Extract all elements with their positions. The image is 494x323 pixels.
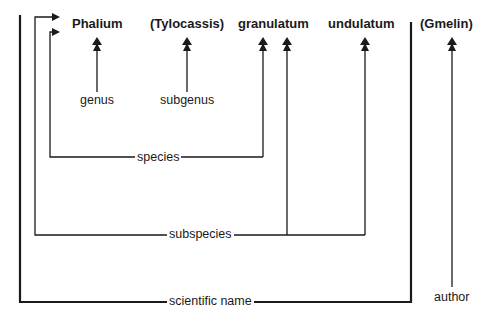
connector-lines: [0, 0, 494, 323]
arrowhead-icon: [447, 37, 457, 45]
subgenus-label: subgenus: [158, 93, 216, 107]
genus-label: genus: [78, 93, 116, 107]
genus-name: Phalium: [72, 16, 123, 31]
species-name: granulatum: [238, 16, 309, 31]
subgenus-name: (Tylocassis): [150, 16, 224, 31]
subspecies-bracket: [35, 17, 287, 235]
author-label: author: [432, 290, 471, 304]
scientific-name-bracket: [20, 15, 411, 302]
subspecies-name: undulatum: [328, 16, 394, 31]
species-label: species: [135, 150, 181, 164]
subspecies-label: subspecies: [167, 227, 234, 241]
arrowhead-icon: [360, 37, 370, 45]
arrowhead-icon: [92, 37, 102, 45]
arrowhead-icon: [258, 37, 268, 45]
taxonomy-diagram: Phalium (Tylocassis) granulatum undulatu…: [0, 0, 494, 323]
arrowhead-icon: [182, 37, 192, 45]
author-name: (Gmelin): [420, 16, 473, 31]
arrowhead-icon: [282, 37, 292, 45]
scientific-name-label: scientific name: [167, 294, 254, 308]
